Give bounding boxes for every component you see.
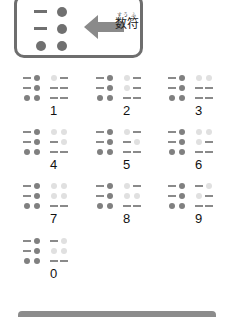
light-dot-icon [196, 129, 202, 135]
number-label: 2 [123, 104, 159, 118]
dark-dot-icon [107, 139, 113, 145]
light-dot-icon [51, 248, 57, 254]
dash-icon [205, 195, 213, 197]
dash-icon [123, 97, 131, 99]
dark-dot-icon [169, 203, 175, 209]
light-dot-icon [51, 75, 57, 81]
dark-dot-icon [179, 85, 185, 91]
dark-dot-icon [179, 95, 185, 101]
braille-cells [95, 181, 159, 211]
numeral-sign-cell [95, 73, 115, 103]
light-dot-icon [134, 139, 140, 145]
dash-icon [23, 250, 31, 252]
dash-icon [205, 151, 213, 153]
dash-icon [96, 77, 104, 79]
digit-cell [122, 73, 142, 103]
dark-dot-icon [34, 139, 40, 145]
braille-number-9: 9 [167, 181, 231, 226]
dash-icon [123, 151, 131, 153]
light-dot-icon [196, 75, 202, 81]
light-dot-icon [124, 129, 130, 135]
dash-icon [60, 260, 68, 262]
dark-dot-icon [24, 149, 30, 155]
braille-cells [167, 73, 231, 103]
dark-dot-icon [169, 95, 175, 101]
number-label: 6 [195, 158, 231, 172]
dark-dot-icon [169, 149, 175, 155]
digit-cell [49, 127, 69, 157]
light-dot-icon [51, 193, 57, 199]
dot-icon [57, 24, 67, 34]
dash-icon [60, 77, 68, 79]
dash-icon [50, 151, 58, 153]
digit-cell [194, 73, 214, 103]
digit-cell [122, 127, 142, 157]
dark-dot-icon [24, 203, 30, 209]
braille-cells [22, 236, 86, 266]
light-dot-icon [51, 183, 57, 189]
dash-icon [60, 97, 68, 99]
dash-icon [168, 131, 176, 133]
dash-icon [60, 87, 68, 89]
dash-icon [168, 141, 176, 143]
numeral-sign-text: 数符 [115, 17, 139, 31]
dash-icon [195, 151, 203, 153]
number-label: 4 [50, 158, 86, 172]
dark-dot-icon [34, 203, 40, 209]
dash-icon [96, 141, 104, 143]
digit-cell [49, 73, 69, 103]
dash-icon [195, 205, 203, 207]
dash-icon [96, 131, 104, 133]
dark-dot-icon [97, 149, 103, 155]
dash-icon [168, 195, 176, 197]
dash-icon [50, 205, 58, 207]
digit-cell [49, 236, 69, 266]
dark-dot-icon [107, 85, 113, 91]
dash-icon [123, 141, 131, 143]
dark-dot-icon [34, 248, 40, 254]
dash-icon [50, 240, 58, 242]
dash-icon [34, 10, 47, 13]
dark-dot-icon [34, 85, 40, 91]
dark-dot-icon [34, 238, 40, 244]
dash-icon [133, 185, 141, 187]
light-dot-icon [206, 129, 212, 135]
light-dot-icon [124, 75, 130, 81]
dash-icon [50, 87, 58, 89]
digit-cell [194, 127, 214, 157]
dash-icon [205, 87, 213, 89]
dash-icon [96, 185, 104, 187]
number-label: 3 [195, 104, 231, 118]
dash-icon [133, 205, 141, 207]
numeral-sign-cell [95, 127, 115, 157]
light-dot-icon [206, 75, 212, 81]
light-dot-icon [51, 129, 57, 135]
dark-dot-icon [34, 75, 40, 81]
dash-icon [205, 141, 213, 143]
light-dot-icon [124, 193, 130, 199]
dash-icon [205, 97, 213, 99]
light-dot-icon [196, 193, 202, 199]
braille-number-1: 1 [22, 73, 86, 118]
braille-number-8: 8 [95, 181, 159, 226]
dash-icon [23, 87, 31, 89]
numeral-sign-cell [22, 181, 42, 211]
dark-dot-icon [107, 193, 113, 199]
dash-icon [168, 87, 176, 89]
numeral-sign-cell [22, 127, 42, 157]
numeral-sign-cell [167, 127, 187, 157]
dark-dot-icon [179, 203, 185, 209]
dot-icon [57, 41, 67, 51]
braille-cells [22, 127, 86, 157]
braille-cells [167, 127, 231, 157]
numeral-sign-cell [22, 236, 42, 266]
dark-dot-icon [179, 139, 185, 145]
number-label: 8 [123, 212, 159, 226]
numeral-sign-label: すう ふ 数符 [115, 11, 139, 31]
dash-icon [50, 97, 58, 99]
dash-icon [60, 205, 68, 207]
dash-icon [23, 141, 31, 143]
dark-dot-icon [179, 183, 185, 189]
dark-dot-icon [24, 258, 30, 264]
numeral-sign-cell [167, 73, 187, 103]
